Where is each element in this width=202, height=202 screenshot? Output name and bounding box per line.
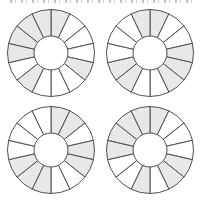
wheel-top-left-svg: [6, 8, 96, 98]
segmented-wheel-top-right: [105, 8, 195, 98]
cropped-text-artifact: [10, 0, 192, 3]
segmented-wheel-top-left: [6, 8, 96, 98]
wheel-bottom-right-svg: [105, 105, 195, 195]
screen: [0, 0, 202, 202]
segmented-wheel-bottom-left: [6, 105, 96, 195]
segmented-wheel-bottom-right: [105, 105, 195, 195]
wheel-top-right-svg: [105, 8, 195, 98]
wheel-bottom-left-svg: [6, 105, 96, 195]
